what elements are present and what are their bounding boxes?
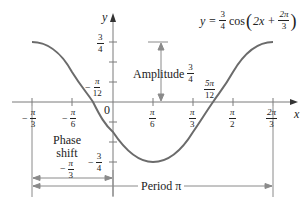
y-tick-sign: − — [88, 158, 94, 168]
intercept-den: 12 — [93, 88, 102, 98]
equation-open-paren: ( — [246, 12, 252, 30]
y-tick-den: 4 — [98, 44, 103, 54]
x-tick-2pi-3: 2π3 — [266, 108, 277, 129]
y-tick-num: 3 — [97, 33, 104, 44]
x-tick-den: 6 — [150, 119, 155, 129]
equation-coefficient: 3 4 — [219, 10, 226, 31]
y-tick-3-4: 34 — [97, 33, 104, 54]
phase-shift-annotation: Phase shift − π3 — [53, 134, 81, 180]
x-tick-den: 6 — [71, 119, 76, 129]
x-axis-arrow-icon — [290, 99, 298, 105]
intercept-num: π — [94, 77, 101, 88]
y-tick-neg-3-4: − 34 — [88, 152, 102, 173]
y-axis-label: y — [102, 11, 107, 23]
coef-den: 4 — [220, 21, 225, 31]
x-tick-neg-pi-3: − π3 — [22, 108, 36, 129]
x-tick-neg-pi-6: − π6 — [62, 108, 76, 129]
phase-den: 3 — [282, 21, 287, 31]
x-tick-num: π — [149, 108, 156, 119]
x-axis-label: x — [294, 108, 299, 120]
equation-close-paren: ) — [290, 12, 296, 30]
equation-label: y = 3 4 cos ( 2x + 2π 3 ) — [200, 10, 296, 31]
period-label: Period π — [141, 180, 181, 192]
x-tick-den: 3 — [269, 119, 274, 129]
x-tick-pi-3: π3 — [189, 108, 196, 129]
intercept-neg-pi-12: − π12 — [85, 77, 102, 98]
y-tick-num: 3 — [96, 152, 103, 163]
amplitude-den: 4 — [188, 74, 193, 84]
x-tick-pi-6: π6 — [149, 108, 156, 129]
y-tick-den: 4 — [97, 163, 102, 173]
x-tick-pi-2: π2 — [229, 108, 236, 129]
x-tick-num: π — [70, 108, 77, 119]
x-tick-num: π — [30, 108, 37, 119]
intercept-sign: − — [85, 83, 91, 93]
phase-den: 3 — [69, 170, 74, 180]
amplitude-annotation: Amplitude 34 — [133, 63, 194, 84]
x-tick-den: 2 — [230, 119, 235, 129]
intercept-den: 12 — [205, 90, 214, 100]
x-tick-num: 2π — [266, 108, 277, 119]
amplitude-label: Amplitude — [133, 68, 184, 80]
phase-num: π — [68, 159, 75, 170]
phase-label-line1: Phase — [53, 134, 81, 147]
y-axis-arrow-icon — [110, 13, 116, 22]
x-tick-den: 3 — [190, 119, 195, 129]
x-tick-sign: − — [62, 114, 68, 124]
graph-canvas — [0, 0, 308, 207]
coef-num: 3 — [219, 10, 226, 21]
phase-sign: − — [60, 164, 66, 175]
intercept-5pi-12: 5π12 — [204, 79, 215, 100]
equation-arg: 2x + — [253, 15, 275, 27]
equation-phase: 2π 3 — [278, 10, 289, 31]
intercept-num: 5π — [204, 79, 215, 90]
phase-label-line2: shift — [53, 147, 81, 160]
x-tick-num: π — [229, 108, 236, 119]
origin-label: 0 — [104, 104, 110, 116]
equation-func: cos — [229, 15, 245, 27]
equation-prefix: y = — [200, 15, 216, 27]
x-tick-den: 3 — [31, 119, 36, 129]
x-tick-sign: − — [22, 114, 28, 124]
amplitude-num: 3 — [187, 63, 194, 74]
phase-num: 2π — [278, 10, 289, 21]
x-tick-num: π — [189, 108, 196, 119]
